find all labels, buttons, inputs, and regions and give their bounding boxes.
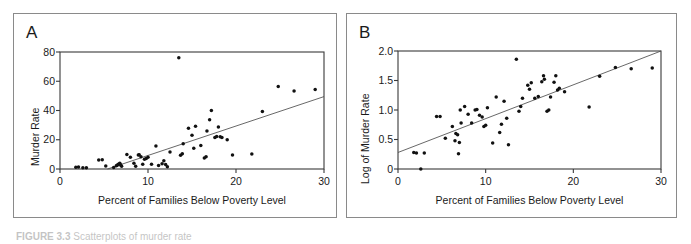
data-point (162, 159, 166, 163)
data-point (139, 155, 143, 159)
data-point (192, 146, 196, 150)
data-point (530, 81, 534, 85)
data-point (231, 153, 235, 157)
data-point (558, 86, 562, 90)
data-point (502, 99, 506, 103)
data-point (554, 74, 558, 78)
data-point (225, 138, 229, 142)
data-point (484, 124, 488, 128)
data-point (540, 80, 544, 84)
data-point (456, 133, 460, 137)
data-point (519, 105, 523, 109)
data-point (190, 134, 194, 138)
data-point (552, 81, 556, 85)
data-point (199, 144, 203, 148)
data-point (146, 156, 150, 160)
data-point (451, 125, 455, 128)
figure-container: A Murder Rate 0 20 40 60 80 0 10 20 30 P… (0, 0, 691, 244)
data-point (419, 167, 423, 171)
data-point (549, 95, 553, 99)
data-point (498, 131, 502, 135)
data-point (125, 153, 129, 157)
data-point (141, 163, 145, 167)
data-point (521, 96, 525, 100)
panel-b-plot-area (347, 14, 678, 219)
data-point (187, 127, 191, 131)
data-point (220, 136, 224, 140)
data-point (453, 139, 457, 143)
data-point (458, 108, 462, 112)
data-point (542, 74, 546, 78)
panel-a: A Murder Rate 0 20 40 60 80 0 10 20 30 P… (13, 13, 337, 218)
data-point (517, 109, 521, 113)
data-point (205, 129, 209, 133)
data-point (526, 83, 530, 87)
data-point (194, 125, 198, 129)
data-point (547, 108, 551, 112)
data-point (528, 88, 532, 92)
data-point (543, 78, 547, 82)
data-point (505, 117, 509, 121)
data-point (210, 109, 214, 113)
data-point (650, 66, 654, 70)
data-point (160, 162, 164, 166)
data-point (480, 115, 484, 119)
data-point (463, 105, 467, 109)
figure-caption: FIGURE 3.3 Scatterplots of murder rate (16, 232, 192, 242)
data-point (444, 137, 448, 141)
scatter-points (74, 56, 317, 169)
trendline (398, 51, 661, 152)
data-point (598, 75, 602, 79)
data-point (587, 105, 591, 109)
data-point (181, 152, 185, 156)
data-point (150, 163, 154, 167)
data-point (250, 152, 254, 156)
data-point (313, 88, 317, 92)
figure-caption-label: FIGURE 3.3 (16, 232, 70, 242)
data-point (85, 166, 89, 170)
data-point (97, 158, 101, 162)
data-point (154, 144, 158, 148)
data-point (457, 152, 461, 156)
data-point (515, 58, 519, 62)
data-point (470, 121, 474, 125)
data-point (132, 161, 136, 165)
data-point (100, 158, 104, 162)
data-point (208, 118, 212, 122)
data-point (168, 150, 172, 154)
plot-box-border (398, 51, 661, 169)
data-point (215, 135, 219, 139)
data-point (81, 166, 85, 170)
data-point (475, 108, 479, 112)
data-point (217, 125, 221, 129)
data-point (466, 112, 470, 116)
data-point (261, 110, 265, 114)
data-point (134, 165, 138, 169)
panel-b: B Log of Murder Rate 0 0.5 1.0 1.5 2.0 0… (346, 13, 677, 218)
data-point (204, 155, 208, 159)
data-point (181, 142, 185, 146)
data-point (77, 165, 81, 169)
data-point (537, 95, 541, 99)
panel-a-plot-area (14, 14, 338, 219)
data-point (507, 143, 511, 147)
data-point (438, 115, 442, 119)
data-point (563, 90, 567, 94)
data-point (276, 85, 280, 89)
data-point (104, 164, 108, 168)
data-point (614, 66, 618, 70)
data-point (423, 151, 427, 155)
data-point (491, 141, 495, 145)
data-point (157, 164, 161, 168)
data-point (533, 96, 537, 100)
figure-caption-body: Scatterplots of murder rate (73, 232, 191, 242)
data-point (415, 151, 419, 155)
plot-box-border (60, 52, 324, 169)
data-point (166, 165, 170, 169)
data-point (292, 89, 296, 93)
data-point (120, 165, 124, 169)
data-point (435, 115, 439, 119)
data-point (500, 122, 504, 126)
data-point (494, 95, 498, 99)
data-point (486, 106, 490, 110)
